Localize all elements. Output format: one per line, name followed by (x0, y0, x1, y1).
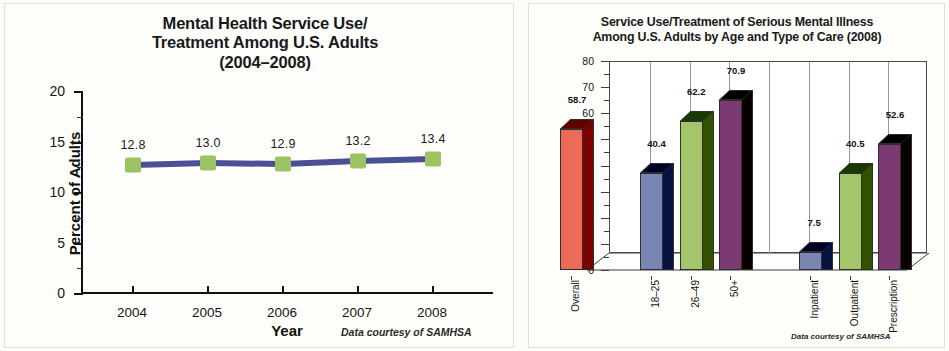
left-chart-title: Mental Health Service Use/ Treatment Amo… (65, 14, 465, 72)
right-chart-y-tick: 0 (601, 270, 609, 271)
left-chart-y-tick-label: 0 (57, 285, 65, 301)
right-chart-bar-face (560, 129, 583, 270)
right-chart-y-tick: 40 (601, 166, 609, 167)
right-chart-y-tick: 50 (601, 139, 609, 140)
right-chart-panel: Service Use/Treatment of Serious Mental … (528, 3, 945, 348)
left-chart-x-tick: 2004 (132, 286, 134, 294)
right-chart-data-label: 7.5 (807, 217, 820, 228)
left-chart-y-tick: 0 (74, 293, 83, 295)
left-chart-y-tick: 20 (74, 91, 83, 93)
left-chart-x-tick-label: 2004 (117, 305, 147, 320)
right-chart-y-tick: 20 (601, 218, 609, 219)
right-chart-x-tick (571, 276, 572, 280)
right-chart-credit: Data courtesy of SAMHSA (791, 332, 891, 341)
left-chart-title-line-1: Mental Health Service Use/ (65, 14, 465, 33)
right-chart-bar: 40.4 (640, 173, 663, 270)
left-chart-title-line-2: Treatment Among U.S. Adults (65, 33, 465, 52)
left-chart-line-segment (283, 158, 358, 167)
right-chart-data-label: 70.9 (727, 65, 746, 76)
left-chart-y-minor-tick (77, 117, 83, 118)
right-chart-y-minor-tick (604, 179, 609, 180)
left-chart-title-line-3: (2004–2008) (65, 53, 465, 72)
right-chart-x-tick-label: Outpatient (849, 280, 860, 326)
right-chart-bar-side (663, 163, 674, 270)
right-chart-title-line-1: Service Use/Treatment of Serious Mental … (537, 15, 937, 30)
left-chart-data-point (425, 151, 441, 166)
right-chart-bar: 70.9 (719, 100, 742, 270)
right-chart-x-tick (730, 276, 731, 280)
left-chart-y-tick-label: 5 (57, 235, 65, 251)
right-chart-x-tick-label: Prescription (888, 280, 899, 333)
left-chart-x-tick: 2007 (357, 286, 359, 294)
left-chart-credit: Data courtesy of SAMHSA (341, 326, 472, 338)
right-chart-data-label: 40.5 (846, 138, 865, 149)
right-chart-bar-side (901, 134, 912, 270)
right-chart-y-minor-tick (604, 100, 609, 101)
left-chart-data-label: 13.0 (195, 136, 220, 150)
left-chart-data-label: 13.4 (420, 132, 445, 146)
right-chart-bar-side (862, 163, 873, 270)
right-chart-bar: 52.6 (878, 144, 901, 270)
left-chart-x-tick: 2008 (432, 286, 434, 294)
right-chart-bar-face (640, 173, 663, 270)
left-chart-y-tick: 10 (74, 192, 83, 194)
left-chart-data-label: 12.9 (270, 137, 295, 151)
left-chart-x-tick: 2006 (282, 286, 284, 294)
left-chart-data-point (200, 155, 216, 170)
left-chart-x-tick-label: 2007 (342, 305, 372, 320)
right-chart-gridline (769, 62, 770, 254)
right-chart-bar-face (719, 100, 742, 270)
right-chart-bar-face (680, 121, 703, 270)
right-chart-y-minor-tick (604, 205, 609, 206)
left-chart-line-segment (208, 160, 283, 167)
right-chart-y-tick: 80 (601, 61, 609, 62)
right-chart-x-tick (691, 276, 692, 280)
left-chart-y-tick-label: 15 (49, 134, 65, 150)
right-chart-x-tick (810, 276, 811, 280)
right-chart-y-tick: 10 (601, 244, 609, 245)
left-chart-panel: Mental Health Service Use/ Treatment Amo… (4, 3, 514, 348)
right-chart-y-tick: 60 (601, 113, 609, 114)
right-chart-bar-face (799, 252, 822, 270)
right-chart-x-tick-label: 50+ (729, 280, 740, 297)
right-chart-y-minor-tick (604, 74, 609, 75)
right-chart-y-minor-tick (604, 152, 609, 153)
left-chart-data-point (125, 157, 141, 172)
right-chart-bar: 40.5 (839, 173, 862, 270)
right-chart-y-minor-tick (604, 231, 609, 232)
right-chart-bar-side (703, 111, 714, 270)
left-chart-x-tick-label: 2006 (267, 305, 297, 320)
right-chart-x-tick-label: Overall (570, 280, 581, 312)
right-chart-bar-side (583, 119, 594, 270)
right-chart-data-label: 40.4 (647, 138, 666, 149)
left-chart-y-tick: 15 (74, 142, 83, 144)
left-chart-y-minor-tick (77, 167, 83, 168)
right-chart-y-minor-tick (604, 257, 609, 258)
right-chart-y-tick: 70 (601, 87, 609, 88)
left-chart-y-minor-tick (77, 218, 83, 219)
left-chart-line-segment (133, 160, 208, 168)
right-chart-data-label: 58.7 (568, 94, 587, 105)
left-chart-y-tick-label: 10 (49, 184, 65, 200)
right-chart-bar-side (742, 90, 753, 270)
right-chart-data-label: 62.2 (687, 86, 706, 97)
right-chart-y-tick-label: 70 (582, 81, 594, 93)
right-chart-y-minor-tick (604, 126, 609, 127)
left-chart-y-tick-label: 20 (49, 83, 65, 99)
left-chart-y-tick: 5 (74, 243, 83, 245)
right-chart-x-tick-label: 26–49 (690, 280, 701, 308)
left-chart-line-segment (358, 156, 433, 164)
left-chart-y-minor-tick (77, 268, 83, 269)
left-chart-data-label: 12.8 (120, 138, 145, 152)
right-chart-bar-face (839, 173, 862, 270)
right-chart-plot-area: 01020304050607080 58.740.462.270.97.540.… (587, 61, 929, 271)
right-chart-bar-face (878, 144, 901, 270)
right-chart-x-tick (850, 276, 851, 280)
left-chart-x-tick-label: 2008 (417, 305, 447, 320)
right-chart-y-tick: 30 (601, 192, 609, 193)
right-chart-x-tick (651, 276, 652, 280)
right-chart-title: Service Use/Treatment of Serious Mental … (537, 15, 937, 44)
right-chart-bar: 58.7 (560, 129, 583, 270)
right-chart-y-tick-label: 80 (582, 55, 594, 67)
right-chart-title-line-2: Among U.S. Adults by Age and Type of Car… (537, 30, 937, 45)
